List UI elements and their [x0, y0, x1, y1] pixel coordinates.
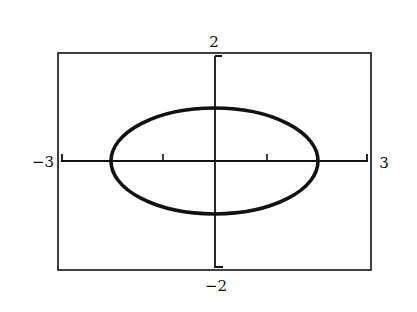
x-min-label: −3 — [32, 153, 54, 171]
x-max-label: 3 — [379, 154, 389, 172]
y-max-label: 2 — [209, 33, 219, 51]
y-min-label: −2 — [205, 277, 227, 295]
chart: 2 −2 −3 3 — [0, 0, 417, 312]
